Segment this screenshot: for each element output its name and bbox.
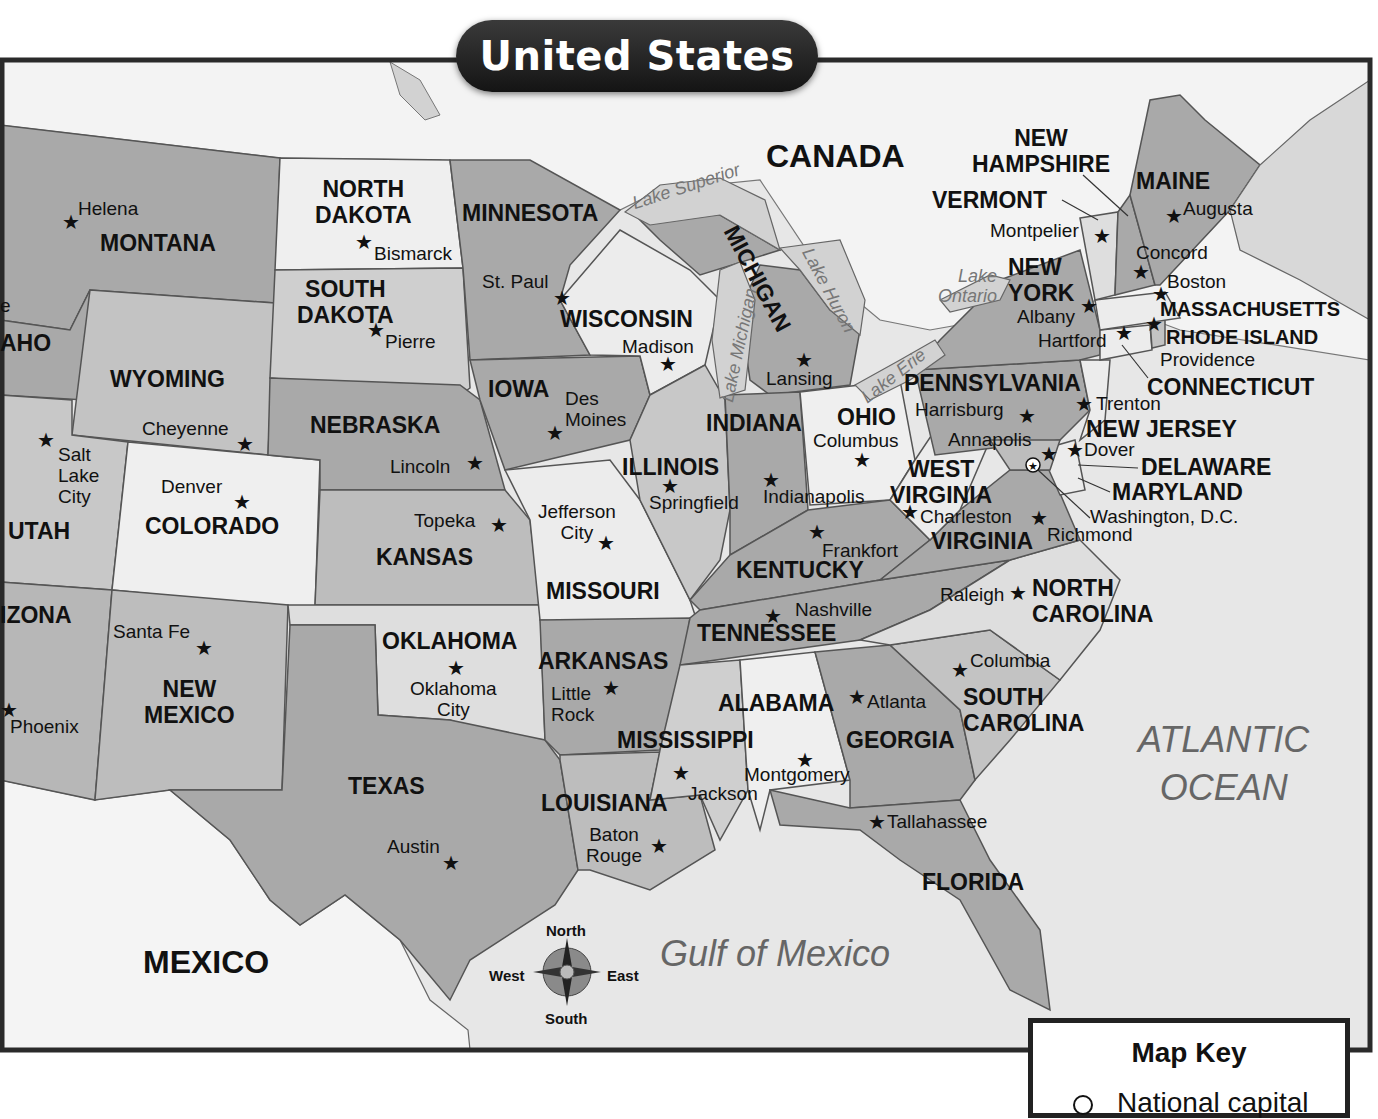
state-label-mississippi: MISSISSIPPI — [617, 729, 754, 752]
state-label-north-dakota: NORTH DAKOTA — [315, 176, 412, 228]
capital-star-icon-topeka: ★ — [490, 515, 508, 535]
capital-star-icon-cheyenne: ★ — [236, 434, 254, 454]
compass-label-east: East — [607, 967, 639, 984]
capital-label-concord: Concord — [1136, 243, 1208, 262]
state-label-texas: TEXAS — [348, 775, 425, 798]
capital-star-icon-denver: ★ — [233, 492, 251, 512]
capital-star-icon-jackson: ★ — [672, 763, 690, 783]
capital-label-providence: Providence — [1160, 350, 1255, 369]
capital-star-icon-st-paul: ★ — [553, 288, 571, 308]
capital-star-icon-augusta: ★ — [1165, 206, 1183, 226]
capital-label-raleigh: Raleigh — [940, 585, 1004, 604]
capital-star-icon-santa-fe: ★ — [195, 638, 213, 658]
state-label-montana: MONTANA — [100, 232, 216, 255]
capital-star-icon-baton-rouge: ★ — [650, 836, 668, 856]
country-label-mexico: MEXICO — [143, 946, 269, 978]
state-label-alabama: ALABAMA — [718, 692, 834, 715]
state-label-vermont: VERMONT — [932, 189, 1047, 212]
state-label-new-hampshire: NEW HAMPSHIRE — [972, 125, 1110, 177]
capital-label-des-moines: Des Moines — [565, 388, 626, 430]
capital-label-columbia: Columbia — [970, 651, 1050, 670]
capital-label-hartford: Hartford — [1038, 331, 1107, 350]
state-label-connecticut: CONNECTICUT — [1147, 376, 1314, 399]
capital-label-harrisburg: Harrisburg — [915, 400, 1004, 419]
capital-label-trenton: Trenton — [1096, 394, 1161, 413]
capital-star-icon-salt-lake-city: ★ — [37, 430, 55, 450]
water-label-gulf-of-mexico: Gulf of Mexico — [660, 936, 890, 972]
capital-star-icon-harrisburg: ★ — [1018, 406, 1036, 426]
water-label-atlantic-ocean: ATLANTIC OCEAN — [1138, 716, 1309, 812]
capital-label-columbus: Columbus — [813, 431, 899, 450]
state-label-virginia: VIRGINIA — [931, 530, 1033, 553]
capital-label-dover: Dover — [1084, 440, 1135, 459]
state-label-new-mexico: NEW MEXICO — [144, 676, 235, 728]
state-label-idaho: AHO — [0, 332, 51, 355]
capital-label-cheyenne: Cheyenne — [142, 419, 229, 438]
capital-star-icon-raleigh: ★ — [1009, 583, 1027, 603]
capital-star-icon-nashville: ★ — [764, 606, 782, 626]
capital-star-icon-richmond: ★ — [1030, 508, 1048, 528]
state-label-louisiana: LOUISIANA — [541, 792, 668, 815]
compass-label-west: West — [489, 967, 525, 984]
capital-star-icon-pierre: ★ — [367, 320, 385, 340]
capital-label-frankfort: Frankfort — [822, 541, 898, 560]
capital-label-indianapolis: Indianapolis — [763, 487, 864, 506]
state-label-georgia: GEORGIA — [846, 729, 955, 752]
capital-label-lincoln: Lincoln — [390, 457, 450, 476]
water-label-lake-ontario: Lake Ontario — [938, 266, 997, 306]
map-title: United States — [456, 20, 818, 92]
map-key: Map Key National capital — [1028, 1018, 1350, 1118]
state-label-rhode-island: RHODE ISLAND — [1166, 327, 1318, 347]
state-label-florida: FLORIDA — [922, 871, 1024, 894]
capital-label-jefferson-city: Jefferson City — [538, 501, 616, 543]
svg-text:★: ★ — [1028, 460, 1038, 473]
state-label-kansas: KANSAS — [376, 546, 473, 569]
state-label-iowa: IOWA — [488, 378, 549, 401]
capital-star-icon-lansing: ★ — [795, 350, 813, 370]
map-key-item: National capital — [1073, 1087, 1308, 1119]
state-label-arkansas: ARKANSAS — [538, 650, 668, 673]
capital-star-icon-madison: ★ — [659, 354, 677, 374]
capital-star-icon-montpelier: ★ — [1093, 226, 1111, 246]
capital-label-jackson: Jackson — [688, 784, 758, 803]
country-label-canada: CANADA — [766, 140, 905, 172]
map-key-item-label: National capital — [1117, 1087, 1308, 1118]
capital-label-annapolis: Annapolis — [948, 430, 1031, 449]
capital-label-nashville: Nashville — [795, 600, 872, 619]
capital-star-icon-tallahassee: ★ — [868, 812, 886, 832]
capital-label-springfield: Springfield — [649, 493, 739, 512]
capital-label-pierre: Pierre — [385, 332, 436, 351]
state-label-wyoming: WYOMING — [110, 368, 225, 391]
capital-star-icon-dover: ★ — [1066, 440, 1084, 460]
state-label-ohio: OHIO — [837, 406, 896, 429]
state-label-pennsylvania: PENNSYLVANIA — [904, 372, 1081, 395]
capital-label-washington-dc: Washington, D.C. — [1090, 507, 1238, 526]
capital-star-icon-little-rock: ★ — [602, 678, 620, 698]
capital-star-icon-annapolis: ★ — [1040, 444, 1058, 464]
capital-label-boston: Boston — [1167, 272, 1226, 291]
capital-label-austin: Austin — [387, 837, 440, 856]
capital-star-icon-providence: ★ — [1145, 314, 1163, 334]
state-label-arizona: IZONA — [0, 604, 72, 627]
capital-star-icon-columbia: ★ — [951, 660, 969, 680]
state-label-maryland: MARYLAND — [1112, 481, 1243, 504]
state-label-minnesota: MINNESOTA — [462, 202, 598, 225]
capital-star-icon-frankfort: ★ — [808, 522, 826, 542]
capital-label-st-paul: St. Paul — [482, 272, 549, 291]
capital-label-denver: Denver — [161, 477, 222, 496]
state-label-south-carolina: SOUTH CAROLINA — [963, 684, 1084, 736]
national-capital-symbol-icon — [1073, 1095, 1093, 1115]
state-label-massachusetts: MASSACHUSETTS — [1160, 299, 1340, 319]
state-label-maine: MAINE — [1136, 170, 1210, 193]
state-label-north-carolina: NORTH CAROLINA — [1032, 575, 1153, 627]
capital-label-baton-rouge: Baton Rouge — [586, 824, 642, 866]
capital-star-icon-columbus: ★ — [853, 450, 871, 470]
compass-label-south: South — [545, 1010, 588, 1027]
capital-label-lansing: Lansing — [766, 369, 833, 388]
capital-star-icon-trenton: ★ — [1075, 394, 1093, 414]
capital-star-icon-charleston: ★ — [901, 502, 919, 522]
state-label-kentucky: KENTUCKY — [736, 559, 864, 582]
capital-star-icon-lincoln: ★ — [466, 453, 484, 473]
capital-star-icon-hartford: ★ — [1115, 323, 1133, 343]
capital-label-helena: Helena — [78, 199, 138, 218]
